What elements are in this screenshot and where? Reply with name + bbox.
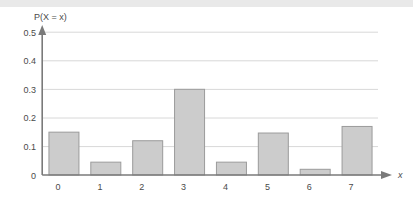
y-tick-label-0.4: 0.4 — [23, 56, 36, 66]
bar-4[interactable] — [216, 162, 246, 175]
bars-group — [49, 89, 372, 175]
y-tick-labels: 0.5 0.4 0.3 0.2 0.1 0 — [23, 28, 36, 181]
y-tick-label-0: 0 — [31, 171, 36, 181]
y-tick-label-0.2: 0.2 — [23, 113, 36, 123]
bar-0[interactable] — [49, 132, 79, 175]
x-tick-label-2: 2 — [139, 182, 144, 192]
bar-3[interactable] — [175, 89, 205, 175]
bar-2[interactable] — [133, 141, 163, 175]
y-tick-label-0.3: 0.3 — [23, 85, 36, 95]
bar-6[interactable] — [300, 169, 330, 175]
x-axis-title: x — [397, 170, 403, 180]
y-axis — [38, 25, 46, 175]
bar-7[interactable] — [342, 126, 372, 175]
x-tick-label-0: 0 — [55, 182, 60, 192]
chart-svg: 0.5 0.4 0.3 0.2 0.1 0 0 1 2 3 4 5 6 7 P(… — [0, 0, 413, 206]
x-tick-labels: 0 1 2 3 4 5 6 7 — [55, 182, 353, 192]
y-axis-title: P(X = x) — [34, 12, 67, 22]
bar-1[interactable] — [91, 162, 121, 175]
y-tick-label-0.1: 0.1 — [23, 142, 36, 152]
x-tick-label-7: 7 — [349, 182, 354, 192]
x-axis-arrowhead — [381, 171, 392, 179]
x-tick-label-5: 5 — [265, 182, 270, 192]
x-tick-label-4: 4 — [223, 182, 228, 192]
x-tick-label-6: 6 — [307, 182, 312, 192]
y-tick-label-0.5: 0.5 — [23, 28, 36, 38]
gridlines — [43, 32, 378, 146]
bar-5[interactable] — [258, 133, 288, 175]
x-tick-label-3: 3 — [181, 182, 186, 192]
x-tick-label-1: 1 — [97, 182, 102, 192]
probability-distribution-chart: 0.5 0.4 0.3 0.2 0.1 0 0 1 2 3 4 5 6 7 P(… — [0, 0, 413, 206]
y-axis-arrowhead — [38, 25, 46, 35]
